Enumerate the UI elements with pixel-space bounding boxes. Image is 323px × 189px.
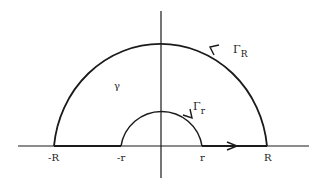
arrow-small-arc-icon xyxy=(183,109,192,118)
contour-diagram: -R -r r R γ ΓR Γr xyxy=(0,0,323,189)
arrow-large-arc-icon xyxy=(210,45,219,55)
label-Gamma-r: Γr xyxy=(193,100,206,116)
label-neg-R: -R xyxy=(48,152,59,163)
label-gamma: γ xyxy=(114,80,120,91)
label-Gamma-R: ΓR xyxy=(233,43,248,59)
label-R: R xyxy=(264,152,272,163)
label-r: r xyxy=(200,152,205,163)
label-neg-r: -r xyxy=(117,152,125,163)
